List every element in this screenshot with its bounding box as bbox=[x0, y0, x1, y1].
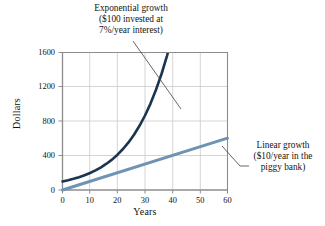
annotation-linear-line-1: Linear growth bbox=[243, 140, 323, 151]
y-tick-label-1200: 1200 bbox=[38, 82, 55, 91]
x-tick-label-60: 60 bbox=[223, 196, 231, 205]
annotation-exponential-line-1: Exponential growth bbox=[77, 3, 185, 14]
chart-figure: 0 400 800 1200 1600 0 10 20 30 40 50 60 … bbox=[0, 0, 325, 226]
annotation-exponential-line-3: 7%/year interest) bbox=[77, 25, 185, 36]
x-axis-title: Years bbox=[0, 206, 290, 217]
x-tick-label-40: 40 bbox=[169, 196, 177, 205]
y-tick-label-1600: 1600 bbox=[38, 48, 55, 57]
y-axis-ticks bbox=[59, 53, 63, 191]
x-tick-label-30: 30 bbox=[141, 196, 149, 205]
y-tick-label-400: 400 bbox=[42, 151, 55, 160]
x-tick-label-50: 50 bbox=[196, 196, 204, 205]
x-tick-label-0: 0 bbox=[60, 196, 64, 205]
annotation-linear-line-3: piggy bank) bbox=[243, 162, 323, 173]
y-tick-label-0: 0 bbox=[51, 186, 55, 195]
y-axis-title: Dollars bbox=[11, 84, 22, 144]
annotation-linear-growth: Linear growth ($10/year in the piggy ban… bbox=[243, 140, 323, 174]
annotation-linear-line-2: ($10/year in the bbox=[243, 151, 323, 162]
x-tick-label-20: 20 bbox=[113, 196, 121, 205]
x-tick-label-10: 10 bbox=[86, 196, 94, 205]
annotation-exponential-line-2: ($100 invested at bbox=[77, 14, 185, 25]
annotation-exponential-growth: Exponential growth ($100 invested at 7%/… bbox=[77, 3, 185, 37]
y-tick-label-800: 800 bbox=[42, 117, 55, 126]
